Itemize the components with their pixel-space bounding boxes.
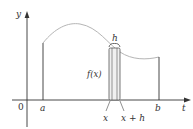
area-function-diagram: y 0 t a b h f(x) x x + h [0,0,193,129]
t-axis [12,98,191,103]
x-plus-h-pointer [120,101,124,111]
a-label: a [40,103,45,113]
y-axis [25,11,30,127]
h-brace-icon [109,43,120,47]
t-axis-label: t [182,103,186,113]
h-label: h [112,33,118,43]
b-label: b [155,103,161,113]
x-label: x [103,113,108,123]
origin-label: 0 [18,102,24,112]
strip-rectangle [109,48,120,100]
x-pointer [106,101,110,111]
function-curve [43,24,159,59]
t-axis-arrow-icon [184,98,191,103]
fx-label: f(x) [86,69,102,79]
x-plus-h-label: x + h [121,113,145,123]
y-axis-arrow-icon [25,11,30,18]
y-axis-label: y [15,9,22,19]
